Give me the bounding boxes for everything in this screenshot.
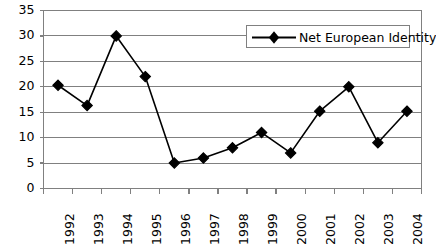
x-axis-tick-label: 2003 [383, 213, 395, 245]
x-axis-tick-label: 1994 [122, 213, 134, 245]
x-axis-tick-label: 1992 [64, 213, 76, 245]
x-axis-tick-label: 1997 [209, 213, 221, 245]
y-axis-tick-label: 25 [0, 55, 35, 67]
y-axis-tick-label: 35 [0, 4, 35, 16]
chart-legend: Net European Identity [246, 25, 410, 48]
legend-marker-icon [252, 27, 296, 48]
x-axis-tick-label: 2002 [354, 213, 366, 245]
y-axis-tick-label: 30 [0, 29, 35, 41]
y-axis-tick-label: 15 [0, 106, 35, 118]
legend-label: Net European Identity [299, 30, 436, 45]
x-axis-tick-label: 2001 [325, 213, 337, 245]
x-axis-tick-label: 1995 [151, 213, 163, 245]
y-axis-tick-label: 10 [0, 131, 35, 143]
x-axis-tick-label: 2000 [296, 213, 308, 245]
y-axis-tick-label: 0 [0, 182, 35, 194]
y-axis-tick-label: 5 [0, 157, 35, 169]
x-axis-tick-label: 1996 [180, 213, 192, 245]
x-axis-tick-label: 1999 [267, 213, 279, 245]
x-axis-tick-label: 1993 [93, 213, 105, 245]
x-axis-tick-label: 2004 [412, 213, 424, 245]
legend-entry-net-european-identity: Net European Identity [247, 26, 411, 49]
y-axis-tick-label: 20 [0, 80, 35, 92]
x-axis-tick-label: 1998 [238, 213, 250, 245]
